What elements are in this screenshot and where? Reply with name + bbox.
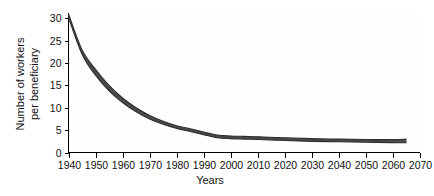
x-tick-label: 2070 <box>409 159 433 171</box>
y-tick-label: 0 <box>56 147 62 159</box>
x-tick-label: 1950 <box>85 159 109 171</box>
x-axis-title: Years <box>196 174 224 186</box>
y-tick-label: 15 <box>50 79 62 91</box>
x-tick-label: 2000 <box>220 159 244 171</box>
x-tick-label: 2050 <box>355 159 379 171</box>
x-tick-label: 2040 <box>328 159 352 171</box>
x-tick-label: 2010 <box>247 159 271 171</box>
x-tick-label: 2060 <box>382 159 406 171</box>
x-tick-labels: 1940195019601970198019902000201020202030… <box>58 159 433 171</box>
plot-area-background <box>68 14 418 152</box>
x-tick-label: 1960 <box>112 159 136 171</box>
x-tick-label: 1980 <box>166 159 190 171</box>
y-tick-label: 10 <box>50 102 62 114</box>
y-tick-label: 25 <box>50 35 62 47</box>
x-tick-label: 1970 <box>139 159 163 171</box>
x-tick-label: 2030 <box>301 159 325 171</box>
chart-figure: 051015202530 194019501960197019801990200… <box>0 0 434 196</box>
y-axis-title-line1: Number of workers <box>14 37 26 130</box>
x-tick-label: 1990 <box>193 159 217 171</box>
y-axis-title-line2: per beneficiary <box>28 47 40 120</box>
y-tick-label: 30 <box>50 12 62 24</box>
workers-per-beneficiary-chart: 051015202530 194019501960197019801990200… <box>0 0 434 196</box>
x-tick-label: 2020 <box>274 159 298 171</box>
y-tick-label: 5 <box>56 124 62 136</box>
y-tick-label: 20 <box>50 57 62 69</box>
y-tick-labels: 051015202530 <box>50 12 62 159</box>
x-tick-label: 1940 <box>58 159 82 171</box>
